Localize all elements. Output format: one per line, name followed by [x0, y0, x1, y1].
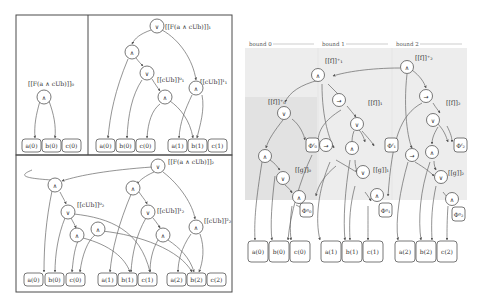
implies-icon: → [323, 142, 328, 149]
phi-label: Φᵍ₂ [454, 211, 464, 218]
or-node: ∨ [435, 171, 448, 184]
g-label-1: [[g]]₁ [373, 166, 389, 174]
sub-label: [[cUb]]⁰₁ [157, 76, 184, 83]
or-icon: ∨ [431, 117, 435, 124]
leaf-node: b(1) [188, 139, 207, 152]
leaf-label: c(1) [212, 142, 224, 149]
and-icon: ∧ [161, 232, 165, 239]
leaf-label: b(0) [119, 142, 131, 149]
and-icon: ∧ [53, 182, 57, 189]
leaf-node: b(0) [45, 273, 64, 286]
phi-box: Φᵍ₀ [300, 203, 313, 217]
panel-label: [[F(a ∧ cUb)]]₂ [168, 158, 215, 165]
f-plus-label-0: [[f]]⁺₀ [268, 98, 286, 105]
right-leaves: a(0)b(0)c(0)a(1)b(1)c(1)a(2)b(2)c(2) [248, 241, 457, 262]
leaf-label: b(0) [45, 142, 57, 149]
and-icon: ∧ [450, 196, 454, 203]
right-figure: bound 0 bound 1 bound 2 [[f]]⁺₀ [[f]]⁺₁ … [245, 41, 467, 262]
and-node: ∧ [312, 69, 325, 82]
and-node: ∧ [371, 189, 384, 202]
leaf-label: b(1) [121, 276, 133, 283]
f-label-1: [[f]]₁ [368, 99, 382, 106]
left-figure: [[F(a ∧ cUb)]]₀ ∧ [[F(a ∧ cUb)]]₁ [[cUb]… [16, 15, 232, 292]
implies-icon: → [336, 97, 341, 104]
leaf-label: a(0) [99, 142, 111, 149]
or-icon: ∨ [355, 121, 359, 128]
or-node: ∨ [278, 107, 291, 120]
phi-box: Φᶠ₂ [454, 138, 467, 152]
or-icon: ∨ [361, 169, 365, 176]
leaf-node: a(2) [395, 241, 415, 262]
leaf-node: b(2) [416, 241, 436, 262]
and-icon: ∧ [350, 145, 354, 152]
diagram-canvas: [[F(a ∧ cUb)]]₀ ∧ [[F(a ∧ cUb)]]₁ [[cUb]… [0, 0, 489, 308]
leaf-node: c(2) [207, 273, 226, 286]
leaf-node: a(1) [321, 241, 341, 262]
leaf-label: c(2) [211, 276, 223, 283]
and-icon: ∧ [131, 185, 135, 192]
leaf-node: a(2) [167, 273, 186, 286]
or-icon: ∨ [281, 175, 285, 182]
leaf-node: a(0) [248, 241, 268, 262]
leaf-node: a(0) [22, 139, 41, 152]
and-icon: ∧ [316, 72, 320, 79]
leaf-label: a(0) [252, 248, 264, 255]
and-icon: ∧ [194, 85, 198, 92]
leaf-node: a(0) [24, 273, 43, 286]
leaf-node: c(2) [437, 241, 457, 262]
and-node: ∧ [293, 191, 306, 204]
leaf-node: a(1) [98, 273, 117, 286]
implies-icon: → [409, 152, 414, 159]
phi-label: Φᵍ₀ [302, 207, 312, 214]
sub-label: [[cUb]]¹₁ [200, 78, 227, 85]
leaf-label: b(0) [48, 276, 60, 283]
leaf-label: a(1) [101, 276, 113, 283]
leaf-label: a(0) [25, 142, 37, 149]
leaf-node: a(1) [168, 139, 187, 152]
g-label-0: [[g]]₀ [295, 166, 312, 174]
and-icon: ∧ [194, 224, 198, 231]
or-node: ∨ [277, 172, 290, 185]
implies-node: → [406, 149, 419, 162]
and-icon: ∧ [297, 194, 301, 201]
and-node: ∧ [426, 146, 439, 159]
leaf-node: b(2) [187, 273, 206, 286]
implies-node: → [420, 90, 433, 103]
header-bound0: bound 0 [249, 41, 272, 47]
leaf-label: c(0) [140, 142, 152, 149]
leaf-label: b(1) [346, 248, 358, 255]
leaf-label: c(0) [70, 276, 82, 283]
f-plus-label-1: [[f]]⁺₁ [325, 57, 343, 64]
leaf-node: c(1) [363, 241, 383, 262]
or-node: ∨ [427, 114, 440, 127]
sub-label: [[cUb]]⁰₂ [77, 201, 105, 208]
or-icon: ∨ [156, 163, 160, 170]
or-node: ∨ [357, 166, 370, 179]
or-icon: ∨ [146, 209, 150, 216]
phi-label: Φᶠ₂ [456, 142, 465, 149]
and-icon: ∧ [375, 192, 379, 199]
leaf-label: b(1) [191, 142, 203, 149]
header-bound1: bound 1 [322, 41, 345, 47]
and-icon: ∧ [42, 94, 46, 101]
and-node: ∧ [346, 142, 359, 155]
g-label-2: [[g]]₂ [448, 169, 465, 177]
header-bound2: bound 2 [396, 41, 419, 47]
implies-icon: → [423, 93, 428, 100]
panel-label: [[F(a ∧ cUb)]]₁ [165, 23, 211, 30]
leaf-node: b(1) [118, 273, 137, 286]
implies-node: → [320, 139, 333, 152]
and-icon: ∧ [430, 149, 434, 156]
leaf-label: a(0) [27, 276, 39, 283]
panel-label: [[F(a ∧ cUb)]]₀ [28, 80, 75, 87]
phi-label: Φᶠ₀ [308, 142, 317, 149]
phi-box: Φᵍ₁ [379, 203, 392, 217]
leaf-node: b(0) [116, 139, 135, 152]
leaf-label: a(1) [171, 142, 183, 149]
phi-label: Φᵍ₁ [381, 207, 391, 214]
phi-box: Φᵍ₂ [452, 207, 465, 221]
leaf-node: c(0) [66, 273, 85, 286]
or-node: ∨ [351, 118, 364, 131]
and-node: ∧ [259, 150, 272, 163]
leaf-node: a(0) [96, 139, 115, 152]
